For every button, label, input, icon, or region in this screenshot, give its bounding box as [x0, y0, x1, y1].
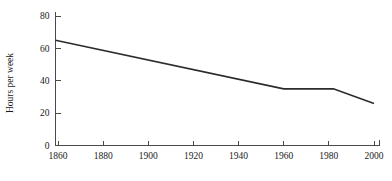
x-tick-label: 1980: [319, 151, 338, 161]
chart-plot-area: 020406080 186018801900192019401960198020…: [0, 0, 392, 181]
x-tick-label: 1940: [229, 151, 248, 161]
x-tick-label: 1880: [94, 151, 113, 161]
y-tick-label: 40: [40, 76, 50, 86]
y-axis-title: Hours per week: [5, 53, 15, 113]
y-tick-label: 80: [40, 11, 50, 21]
y-tick-label: 20: [40, 108, 50, 118]
x-tick-label: 1960: [274, 151, 293, 161]
x-tick-label: 1860: [49, 151, 68, 161]
x-tick-label: 1920: [184, 151, 203, 161]
y-tick-label: 60: [40, 44, 50, 54]
x-tick-label: 1900: [139, 151, 158, 161]
y-tick-label: 0: [45, 141, 50, 151]
x-tick-label: 2000: [365, 151, 384, 161]
line-chart: 020406080 186018801900192019401960198020…: [0, 0, 392, 181]
